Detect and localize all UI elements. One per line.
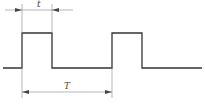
pulse-waveform-diagram: t T	[0, 0, 205, 109]
arrow-right-icon	[15, 8, 22, 12]
arrow-right-icon	[105, 90, 112, 94]
period-label: T	[64, 81, 71, 91]
square-wave	[3, 33, 202, 68]
pulse-width-dimension: t	[5, 0, 73, 12]
arrow-left-icon	[52, 8, 59, 12]
pulse-width-label: t	[37, 0, 41, 9]
arrow-left-icon	[22, 90, 29, 94]
period-dimension: T	[22, 81, 112, 94]
